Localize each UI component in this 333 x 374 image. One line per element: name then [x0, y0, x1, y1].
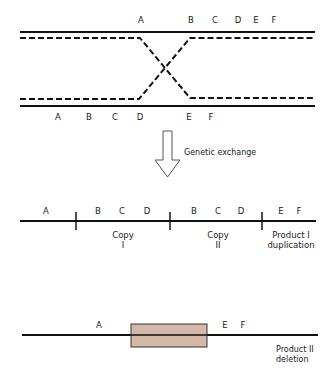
product1-gene-label: C	[119, 206, 125, 216]
product1-gene-label: B	[191, 206, 197, 216]
copy1-label: Copy I	[112, 230, 134, 250]
strand2-gene-label: D	[137, 112, 144, 122]
strand2-gene-label: B	[86, 112, 92, 122]
product1-gene-label: E	[278, 206, 283, 216]
product1-gene-label: F	[297, 206, 302, 216]
strand-2-dashed	[20, 38, 315, 99]
strand1-gene-label: A	[138, 15, 144, 25]
product1-gene-label: A	[43, 206, 49, 216]
product1-name: Product I duplication	[267, 230, 314, 250]
strand-1-dashed	[20, 38, 315, 98]
genetic-exchange-label: Genetic exchange	[184, 148, 256, 158]
strand1-gene-label: D	[235, 15, 242, 25]
strand1-gene-label: F	[272, 15, 277, 25]
strand2-gene-label: E	[186, 112, 191, 122]
product2-gene-label: A	[96, 320, 102, 330]
product1-gene-label: C	[215, 206, 221, 216]
strand2-gene-label: F	[209, 112, 214, 122]
strand2-gene-label: A	[55, 112, 61, 122]
product1-gene-label: B	[95, 206, 101, 216]
product2-gene-label: E	[222, 320, 227, 330]
strand1-gene-label: E	[253, 15, 258, 25]
product1-gene-label: D	[238, 206, 245, 216]
product2-name: Product II deletion	[276, 345, 314, 365]
down-arrow-icon	[155, 131, 180, 177]
product1-gene-label: D	[144, 206, 151, 216]
strand1-gene-label: C	[212, 15, 218, 25]
diagram-graphics	[0, 0, 333, 374]
product2-gene-label: F	[241, 320, 246, 330]
strand2-gene-label: C	[112, 112, 118, 122]
copy2-label: Copy II	[207, 230, 229, 250]
strand1-gene-label: B	[188, 15, 194, 25]
